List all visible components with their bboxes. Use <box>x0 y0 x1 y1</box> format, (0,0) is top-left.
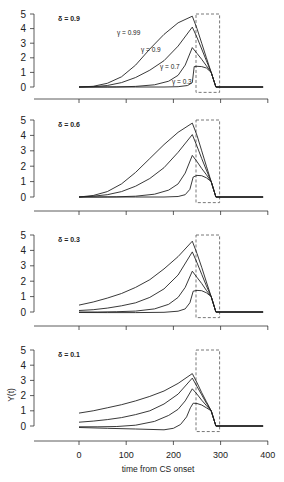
series-line <box>79 403 263 430</box>
figure: 012345δ = 0.9γ = 0.99γ = 0.9γ = 0.7γ = 0… <box>0 0 284 482</box>
y-tick-label: 5 <box>20 230 26 241</box>
x-axis-ticklabels: 0100200300400 <box>76 450 275 460</box>
y-tick-label: 3 <box>20 145 26 156</box>
line-chart: 012345δ = 0.9γ = 0.99γ = 0.9γ = 0.7γ = 0… <box>0 0 284 482</box>
series-line <box>79 175 263 197</box>
x-tick-label: 200 <box>166 450 181 460</box>
x-tick-label: 100 <box>119 450 134 460</box>
y-tick-label: 3 <box>20 260 26 271</box>
y-tick-label: 0 <box>20 421 26 432</box>
series-line <box>79 271 263 312</box>
us-interval-box <box>196 120 220 203</box>
series-line <box>79 155 263 197</box>
y-tick-label: 1 <box>20 405 26 416</box>
y-tick-label: 4 <box>20 130 26 141</box>
series-line <box>79 241 263 312</box>
series-label: γ = 0.7 <box>160 63 180 71</box>
y-tick-label: 2 <box>20 161 26 172</box>
y-tick-label: 4 <box>20 23 26 34</box>
us-interval-box <box>196 14 220 92</box>
panel-label: δ = 0.3 <box>58 236 80 243</box>
y-tick-label: 3 <box>20 38 26 49</box>
y-tick-label: 5 <box>20 345 26 356</box>
series-line <box>79 378 263 426</box>
y-tick-label: 2 <box>20 276 26 287</box>
y-tick-label: 1 <box>20 291 26 302</box>
series-label: γ = 0.9 <box>141 46 161 54</box>
y-tick-label: 2 <box>20 52 26 63</box>
series-line <box>79 16 263 87</box>
series-line <box>79 290 263 312</box>
y-tick-label: 2 <box>20 390 26 401</box>
y-tick-label: 0 <box>20 307 26 318</box>
panel: 012345δ = 0.1 <box>20 345 268 446</box>
y-tick-label: 1 <box>20 176 26 187</box>
y-tick-label: 0 <box>20 82 26 93</box>
y-tick-label: 5 <box>20 115 26 126</box>
x-axis-label: time from CS onset <box>122 464 195 474</box>
series-label: γ = 0.3 <box>172 78 192 86</box>
panel-label: δ = 0.1 <box>58 351 80 358</box>
y-tick-label: 1 <box>20 67 26 78</box>
y-tick-label: 3 <box>20 375 26 386</box>
panel-label: δ = 0.9 <box>58 15 80 22</box>
y-tick-label: 4 <box>20 360 26 371</box>
panel-label: δ = 0.6 <box>58 121 80 128</box>
y-tick-label: 5 <box>20 9 26 20</box>
x-tick-label: 400 <box>260 450 275 460</box>
series-line <box>79 135 263 197</box>
panel: 012345δ = 0.9γ = 0.99γ = 0.9γ = 0.7γ = 0… <box>20 9 268 104</box>
panel: 012345δ = 0.3 <box>20 230 268 331</box>
series-label: γ = 0.99 <box>117 29 141 37</box>
series-line <box>79 374 263 426</box>
x-tick-label: 300 <box>213 450 228 460</box>
panel: 012345δ = 0.6 <box>20 115 268 216</box>
x-tick-label: 0 <box>76 450 81 460</box>
y-tick-label: 0 <box>20 192 26 203</box>
y-axis-label: Y(t) <box>6 388 16 402</box>
y-tick-label: 4 <box>20 245 26 256</box>
us-interval-box <box>196 235 220 318</box>
